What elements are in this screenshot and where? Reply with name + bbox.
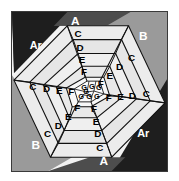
diagram-plate: Ar A B Ar A B C D E F C D E F bbox=[11, 11, 168, 172]
ring-label-d-right: D bbox=[129, 90, 136, 101]
corner-label-a-bottom: A bbox=[100, 154, 109, 168]
ring-label-d-ne: D bbox=[116, 61, 123, 72]
ring-label-d-bottom: D bbox=[94, 128, 101, 139]
core-label-g-3: G bbox=[96, 83, 102, 92]
ring-label-c-left: C bbox=[29, 81, 36, 92]
corner-label-a-top: A bbox=[71, 14, 80, 28]
ring-label-f-right: F bbox=[106, 92, 112, 103]
ring-label-e-sw: E bbox=[65, 111, 72, 122]
ring-label-e-ne: E bbox=[106, 70, 113, 81]
core-g-labels-group: G G G G G G G bbox=[78, 82, 102, 101]
ring-label-c-bottom: C bbox=[96, 142, 103, 153]
ring-label-f-top: F bbox=[81, 66, 87, 77]
ring-label-d-top: D bbox=[77, 42, 84, 53]
core-label-g-7: G bbox=[83, 87, 89, 96]
corner-label-ar-bottom-right: Ar bbox=[137, 127, 150, 139]
ring-label-f-bottom: F bbox=[91, 103, 97, 114]
core-label-g-2: G bbox=[89, 82, 95, 91]
ring-label-e-right: E bbox=[117, 91, 124, 102]
core-label-g-6: G bbox=[94, 92, 100, 101]
corner-label-ar-top-left: Ar bbox=[30, 39, 43, 51]
ring-label-c-right: C bbox=[143, 88, 150, 99]
ring-label-c-sw: C bbox=[44, 128, 51, 139]
corner-label-b-bottom-left: B bbox=[31, 138, 40, 152]
ring-label-f-sw: F bbox=[74, 102, 80, 113]
ring-label-c-ne: C bbox=[128, 52, 135, 63]
figure-root: Ar A B Ar A B C D E F C D E F bbox=[0, 0, 179, 181]
corner-label-b-top-right: B bbox=[139, 29, 148, 43]
ring-label-c-top: C bbox=[75, 28, 82, 39]
ring-label-e-top: E bbox=[79, 54, 86, 65]
ring-label-e-left: E bbox=[56, 85, 63, 96]
ring-label-d-sw: D bbox=[55, 120, 62, 131]
ring-label-e-bottom: E bbox=[93, 116, 100, 127]
ring-label-d-left: D bbox=[43, 83, 50, 94]
zoned-hexagon-diagram: Ar A B Ar A B C D E F C D E F bbox=[12, 12, 167, 171]
ring-label-f-left: F bbox=[68, 86, 74, 97]
